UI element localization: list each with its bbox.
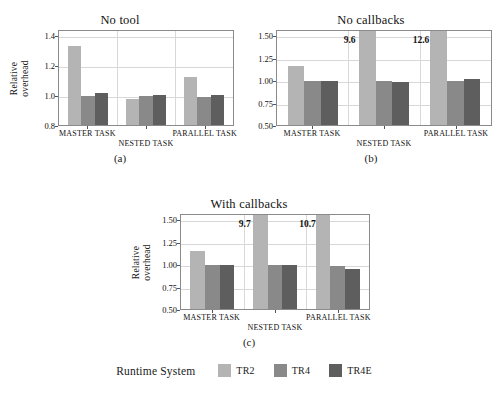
bar (447, 81, 464, 125)
ytick-label: 1.2 (44, 61, 55, 71)
gridline-vertical (348, 31, 349, 125)
panel-a-plot-area (58, 30, 234, 126)
xtick-label: NESTED TASK (357, 139, 412, 148)
bar (345, 269, 360, 309)
panel-a-ylabel: Relative overhead (6, 30, 32, 126)
xtick-label: MASTER TASK (284, 129, 341, 138)
panel-c-ylabel-line2: overhead (141, 244, 152, 280)
bar (139, 96, 153, 125)
bar (184, 77, 198, 125)
ytick-label: 0.8 (44, 121, 55, 131)
panel-a-ylabel-line2: overhead (19, 60, 30, 96)
bar (304, 81, 321, 125)
bar (268, 265, 283, 309)
panel-c-title: With callbacks (128, 196, 370, 212)
xtick-label: MASTER TASK (183, 313, 240, 322)
gridline-horizontal (277, 60, 491, 61)
xtick-mark (146, 126, 147, 129)
legend-swatch-tr4e (329, 364, 342, 377)
panel-a-xaxis: MASTER TASKNESTED TASKPARALLEL TASK (58, 126, 234, 152)
ytick-label: 1.25 (162, 238, 177, 248)
chart-panel-a: No tool Relative overhead 0.81.01.21.4 M… (6, 12, 234, 164)
chart-panel-b: No callbacks 0.500.751.001.251.50 9.612.… (250, 12, 492, 164)
bar (288, 66, 305, 125)
bar (126, 99, 140, 125)
panel-a-title: No tool (6, 12, 234, 28)
legend-swatch-tr2 (218, 364, 231, 377)
legend-label: TR2 (236, 365, 254, 376)
bar (68, 46, 82, 126)
chart-panel-c: With callbacks Relative overhead 0.500.7… (128, 196, 370, 348)
bar-value-annotation: 12.6 (413, 35, 430, 45)
xtick-label: PARALLEL TASK (424, 129, 489, 138)
gridline-vertical (244, 215, 245, 309)
bar (376, 81, 393, 125)
bar (321, 81, 338, 125)
legend-label: TR4 (292, 365, 310, 376)
ytick-label: 1.00 (258, 76, 273, 86)
xtick-label: NESTED TASK (119, 139, 174, 148)
bar (197, 97, 211, 126)
panel-b-title: No callbacks (250, 12, 492, 28)
gridline-horizontal (59, 37, 233, 38)
gridline-vertical (175, 31, 176, 125)
ytick-label: 0.50 (162, 305, 177, 315)
xtick-label: NESTED TASK (248, 323, 303, 332)
bar (211, 95, 225, 125)
panel-a-ylabel-line1: Relative (9, 60, 20, 96)
bar (316, 214, 331, 309)
ytick-label: 0.75 (162, 283, 177, 293)
bar-value-annotation: 9.7 (239, 219, 251, 229)
ytick-label: 0.75 (258, 99, 273, 109)
bar (95, 93, 109, 125)
bar (392, 82, 409, 125)
bar (430, 30, 447, 125)
panel-b-ytick-column: 0.500.751.001.251.50 (250, 30, 276, 126)
ytick-label: 0.50 (258, 121, 273, 131)
gridline-horizontal (181, 244, 369, 245)
ytick-label: 1.50 (162, 215, 177, 225)
gridline-horizontal (277, 37, 491, 38)
bar (205, 265, 220, 309)
bar (330, 266, 345, 310)
gridline-vertical (117, 31, 118, 125)
bar (359, 30, 376, 125)
panel-c-ylabel: Relative overhead (128, 214, 154, 310)
bar (464, 79, 481, 125)
bar (190, 251, 205, 309)
xtick-mark (275, 310, 276, 313)
bar-value-annotation: 10.7 (299, 219, 316, 229)
panel-b-letter: (b) (250, 152, 492, 164)
ytick-label: 1.00 (162, 260, 177, 270)
gridline-vertical (420, 31, 421, 125)
bar (220, 265, 235, 309)
bar (282, 265, 297, 309)
panel-c-letter: (c) (128, 336, 370, 348)
panel-c-xaxis: MASTER TASKNESTED TASKPARALLEL TASK (180, 310, 370, 336)
panel-c-ylabel-line1: Relative (131, 244, 142, 280)
ytick-label: 1.0 (44, 91, 55, 101)
bar (81, 96, 95, 125)
gridline-horizontal (181, 221, 369, 222)
ytick-label: 1.4 (44, 31, 55, 41)
panel-c-ytick-column: 0.500.751.001.251.50 (154, 214, 180, 310)
bar (153, 95, 167, 125)
figure-root: No tool Relative overhead 0.81.01.21.4 M… (0, 0, 498, 401)
ytick-label: 1.50 (258, 31, 273, 41)
gridline-vertical (306, 215, 307, 309)
legend: Runtime System TR2TR4TR4E (0, 364, 498, 377)
xtick-mark (384, 126, 385, 129)
legend-item: TR4E (329, 364, 372, 377)
ytick-label: 1.25 (258, 54, 273, 64)
panel-b-plot-area: 9.612.6 (276, 30, 492, 126)
panel-b-xaxis: MASTER TASKNESTED TASKPARALLEL TASK (276, 126, 492, 152)
xtick-label: MASTER TASK (59, 129, 116, 138)
panel-a-letter: (a) (6, 152, 234, 164)
panel-a-ytick-column: 0.81.01.21.4 (32, 30, 58, 126)
bar (253, 214, 268, 309)
panel-c-plot-area: 9.710.7 (180, 214, 370, 310)
legend-title: Runtime System (116, 365, 195, 377)
legend-label: TR4E (347, 365, 372, 376)
gridline-horizontal (59, 67, 233, 68)
legend-item: TR4 (274, 364, 310, 377)
